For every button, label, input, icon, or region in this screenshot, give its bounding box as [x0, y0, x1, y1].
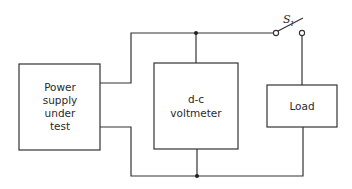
- diagram-svg: S 1 Power supply under test d-c voltmete…: [0, 0, 352, 189]
- switch-right-terminal: [299, 30, 304, 35]
- circuit-diagram: S 1 Power supply under test d-c voltmete…: [0, 0, 352, 189]
- voltmeter-label-line-1: d-c: [188, 93, 204, 105]
- load-label: Load: [289, 100, 314, 112]
- power-supply-label-line-1: Power: [44, 81, 76, 93]
- switch-left-terminal: [273, 30, 278, 35]
- power-supply-label-line-4: test: [50, 120, 70, 132]
- voltmeter-block: [154, 63, 238, 149]
- switch-label-subscript: 1: [290, 20, 294, 28]
- bottom-junction-dot: [195, 174, 199, 178]
- power-supply-label-line-2: supply: [43, 94, 78, 106]
- power-supply-label-line-3: under: [45, 107, 76, 119]
- voltmeter-label-line-2: voltmeter: [170, 107, 222, 119]
- top-junction-dot: [194, 31, 198, 35]
